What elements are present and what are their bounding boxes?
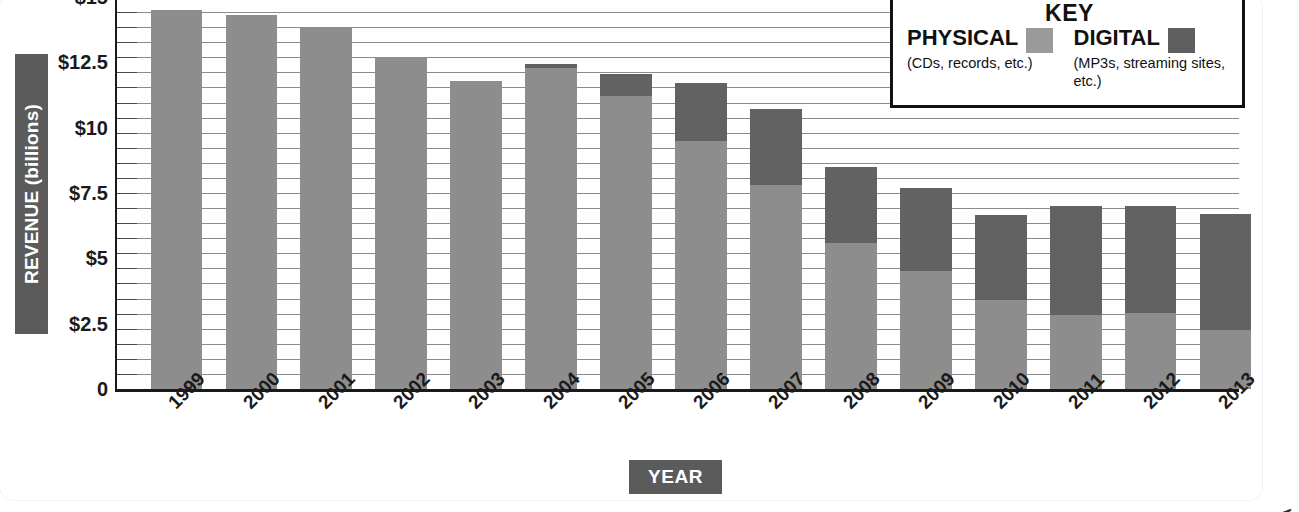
bar-2012[interactable] <box>1125 206 1177 389</box>
source-text: SOURCE: RECORDING INDUSTRY ASSOCIATION O… <box>1277 508 1295 512</box>
bar-2008[interactable] <box>825 167 877 389</box>
bar-segment-digital <box>600 74 652 96</box>
bar-segment-digital <box>1050 206 1102 314</box>
bar-segment-physical <box>300 28 352 389</box>
bar-segment-digital <box>1125 206 1177 313</box>
legend-title: KEY <box>907 1 1232 25</box>
bar-segment-physical <box>226 15 278 389</box>
bar-segment-digital <box>1200 214 1252 330</box>
bar-2004[interactable] <box>525 64 577 389</box>
bar-segment-physical <box>825 243 877 389</box>
y-axis-title: REVENUE (billions) <box>15 54 48 334</box>
y-tick-0: 0 <box>97 378 108 401</box>
bar-segment-physical <box>600 96 652 389</box>
bar-segment-digital <box>975 215 1027 300</box>
source-attribution: SOURCE: RECORDING INDUSTRY ASSOCIATION O… <box>1261 0 1299 512</box>
bar-2006[interactable] <box>675 83 727 389</box>
bar-segment-digital <box>750 109 802 185</box>
bar-segment-physical <box>675 141 727 389</box>
x-axis-title-text: YEAR <box>648 466 703 488</box>
bar-2005[interactable] <box>600 74 652 389</box>
bar-2010[interactable] <box>975 215 1027 389</box>
y-tick-5: $5 <box>86 247 108 270</box>
y-tick-12-5: $12.5 <box>58 51 108 74</box>
legend-label-digital: DIGITAL <box>1074 27 1160 49</box>
y-axis-title-text: REVENUE (billions) <box>21 104 43 284</box>
bar-2009[interactable] <box>900 188 952 389</box>
bar-segment-physical <box>375 57 427 389</box>
legend-item-physical: PHYSICAL (CDs, records, etc.) <box>907 27 1066 90</box>
bar-2007[interactable] <box>750 109 802 389</box>
legend-label-physical: PHYSICAL <box>907 27 1018 49</box>
bar-2000[interactable] <box>226 15 278 389</box>
bar-1999[interactable] <box>151 10 203 389</box>
legend-swatch-digital <box>1168 28 1195 53</box>
y-tick-7-5: $7.5 <box>69 182 108 205</box>
legend-items: PHYSICAL (CDs, records, etc.) DIGITAL (M… <box>907 27 1232 90</box>
bar-2002[interactable] <box>375 57 427 389</box>
legend-sub-physical: (CDs, records, etc.) <box>907 55 1066 73</box>
legend-sub-digital: (MP3s, streaming sites, etc.) <box>1074 55 1233 90</box>
chart-panel: $15$12.5$10$7.5$5$2.50 19992000200120022… <box>0 0 1262 500</box>
x-axis-tick-labels: 1999200020012002200320042005200620072008… <box>115 392 1239 452</box>
bar-segment-physical <box>151 10 203 389</box>
bar-segment-digital <box>675 83 727 140</box>
bar-segment-digital <box>825 167 877 243</box>
y-tick-10: $10 <box>75 116 108 139</box>
bar-segment-physical <box>525 68 577 389</box>
bar-segment-digital <box>525 64 577 68</box>
bar-2003[interactable] <box>450 81 502 389</box>
bar-segment-physical <box>450 81 502 389</box>
legend: KEY PHYSICAL (CDs, records, etc.) DIGITA… <box>890 0 1245 108</box>
bar-segment-digital <box>900 188 952 272</box>
y-tick-15: $15 <box>75 0 108 9</box>
legend-swatch-physical <box>1026 28 1053 53</box>
legend-item-digital: DIGITAL (MP3s, streaming sites, etc.) <box>1074 27 1233 90</box>
bar-2001[interactable] <box>300 28 352 389</box>
bar-2011[interactable] <box>1050 206 1102 389</box>
bar-segment-physical <box>750 185 802 389</box>
bar-2013[interactable] <box>1200 214 1252 389</box>
y-axis-line <box>115 0 117 391</box>
y-tick-2-5: $2.5 <box>69 312 108 335</box>
x-axis-title: YEAR <box>629 460 722 494</box>
